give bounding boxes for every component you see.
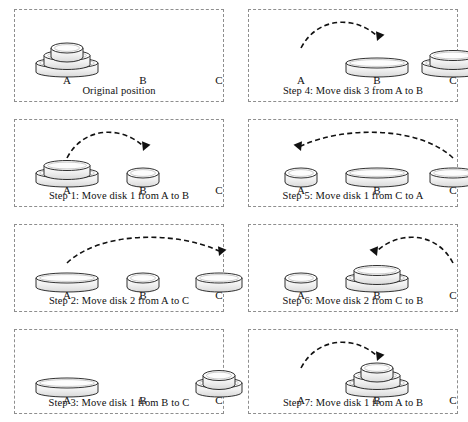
- pegs-illustration: [249, 330, 463, 422]
- grid-cell: ABCStep 4: Move disk 3 from A to B: [234, 0, 468, 110]
- disk-2: [430, 51, 468, 70]
- pegs-illustration: [15, 225, 229, 325]
- move-arrow: [67, 132, 150, 158]
- panel-caption: Step 3: Move disk 1 from B to C: [15, 397, 223, 408]
- panel-step-3: ABCStep 3: Move disk 1 from B to C: [14, 329, 224, 414]
- panel-caption: Original position: [15, 85, 223, 96]
- panel-caption: Step 7: Move disk 1 from A to B: [249, 397, 457, 408]
- panel-grid: ABCOriginal positionABCStep 4: Move disk…: [0, 0, 468, 422]
- grid-cell: ABCOriginal position: [0, 0, 234, 110]
- grid-cell: ABCStep 5: Move disk 1 from C to A: [234, 110, 468, 215]
- panel-step-6: ABCStep 6: Move disk 2 from C to B: [248, 224, 458, 312]
- grid-cell: ABCStep 7: Move disk 1 from A to B: [234, 320, 468, 422]
- grid-cell: ABCStep 6: Move disk 2 from C to B: [234, 215, 468, 320]
- pegs-illustration: [249, 120, 463, 220]
- move-arrow: [301, 22, 384, 48]
- panel-step-4: ABCStep 4: Move disk 3 from A to B: [248, 9, 458, 102]
- panel-caption: Step 5: Move disk 1 from C to A: [249, 190, 457, 201]
- grid-cell: ABCStep 1: Move disk 1 from A to B: [0, 110, 234, 215]
- disk-1: [203, 371, 235, 390]
- pegs-illustration: [15, 120, 229, 220]
- move-arrow: [67, 237, 226, 263]
- pegs-illustration: [15, 330, 229, 422]
- panel-caption: Step 6: Move disk 2 from C to B: [249, 295, 457, 306]
- grid-cell: ABCStep 3: Move disk 1 from B to C: [0, 320, 234, 422]
- panel-caption: Step 4: Move disk 3 from A to B: [249, 85, 457, 96]
- disk-2: [354, 266, 400, 285]
- panel-caption: Step 2: Move disk 2 from A to C: [15, 295, 223, 306]
- panel-original: ABCOriginal position: [14, 9, 224, 102]
- disk-1: [361, 363, 393, 382]
- panel-step-1: ABCStep 1: Move disk 1 from A to B: [14, 119, 224, 207]
- panel-caption: Step 1: Move disk 1 from A to B: [15, 190, 223, 201]
- disk-1: [51, 43, 83, 62]
- pegs-illustration: [249, 225, 463, 325]
- panel-step-5: ABCStep 5: Move disk 1 from C to A: [248, 119, 458, 207]
- move-arrow: [370, 237, 453, 263]
- panel-step-2: ABCStep 2: Move disk 2 from A to C: [14, 224, 224, 312]
- disk-2: [44, 161, 90, 180]
- move-arrow: [294, 132, 453, 158]
- panel-step-7: ABCStep 7: Move disk 1 from A to B: [248, 329, 458, 414]
- grid-cell: ABCStep 2: Move disk 2 from A to C: [0, 215, 234, 320]
